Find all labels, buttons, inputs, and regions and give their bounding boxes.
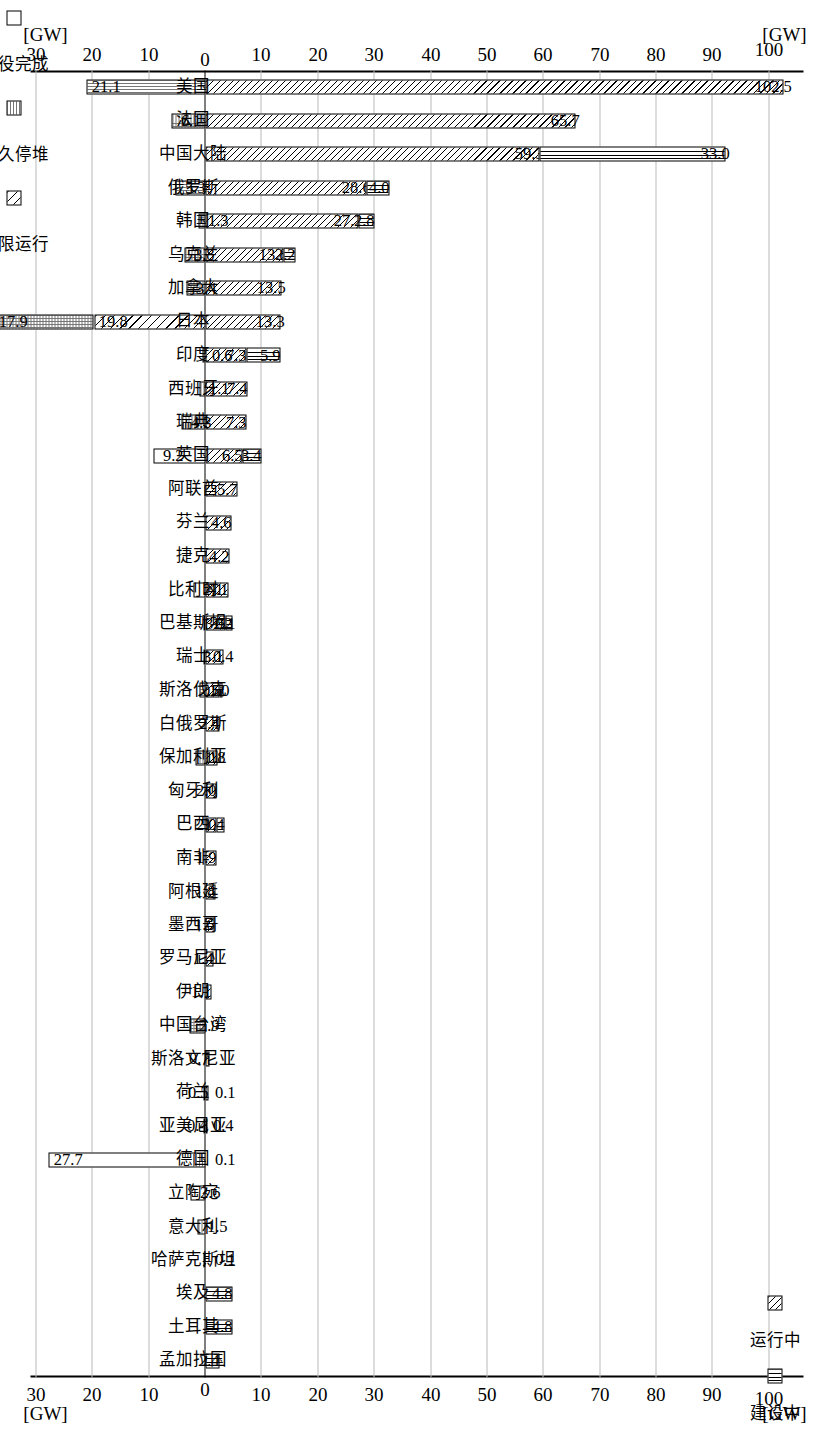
bar-column: 1.9南非 [36,850,797,865]
legend-swatch-decommissioned [7,10,22,25]
axis-tick-left-0: 0 [195,54,214,64]
bar-column: 1.5意大利 [36,1219,797,1234]
legend-label-operating: 运行中 [763,1313,787,1364]
axis-tick-right-40: 40 [421,1384,440,1403]
bar-column: 7.35.90.6印度 [36,347,797,362]
legend-label-shutdown: 永久停堆 [2,118,26,186]
legend-swatch-construction [768,1368,783,1383]
bar-column: 2.50.51.0斯洛伐克 [36,682,797,697]
bar-column: 0.7斯洛文尼亚 [36,1051,797,1066]
bar-column: 4.8埃及 [36,1286,797,1301]
bar-column: 3.10.4瑞士 [36,649,797,664]
axis-tick-right-10: 10 [251,1384,270,1403]
legend-swatch-operating [768,1295,783,1310]
bar-column: 27.12.81.3韩国 [36,213,797,228]
legend-item-operating: 运行中 [763,1295,787,1364]
bar-segment-operating [205,146,539,161]
bar-column: 2.0匈牙利 [36,783,797,798]
bar-segment-construction [539,146,725,161]
legend-item-shutdown: 永久停堆 [2,100,26,186]
axis-tick-left-10: 10 [139,44,158,63]
bar-column: 4.2捷克 [36,548,797,563]
bar-column: 5.7阿联酋 [36,481,797,496]
bar-column: 59.333.0中国大陆 [36,146,797,161]
bar-series-group: 102.521.1美国65.76.1法国59.333.0中国大陆28.64.05… [36,70,797,1377]
legend-swatch-shutdown [7,100,22,115]
bar-column: 13.319.817.9日本 [36,314,797,329]
axis-tick-left-30: 30 [364,44,383,63]
bar-column: 1.1伊朗 [36,984,797,999]
bar-column: 1.4罗马尼亚 [36,951,797,966]
axis-tick-right-70: 70 [590,1384,609,1403]
bar-column: 2.4孟加拉国 [36,1353,797,1368]
axis-tick-right-30: 30 [364,1384,383,1403]
bar-column: 1.8阿根廷 [36,884,797,899]
bar-column: 2.4白俄罗斯 [36,716,797,731]
bar-column: 2.11.8保加利亚 [36,750,797,765]
axis-tick-right-20: 20 [82,1384,101,1403]
legend-item-limited: 受限运行 [2,190,26,276]
axis-tick-left-70: 70 [590,44,609,63]
bar-column: 4.12.1比利时 [36,582,797,597]
plot-area: 0010102020303040405050606070708080909010… [36,70,797,1377]
bar-column: 13.53.4加拿大 [36,280,797,295]
bar-column: 13.82.23.8乌克兰 [36,247,797,262]
axis-tick-right-10: 10 [139,1384,158,1403]
unit-label-bottom-left: [GW] [34,12,56,56]
unit-label-top-left: [GW] [773,12,795,56]
unit-label-bottom-right: [GW] [34,1391,56,1435]
bar-column: 4.8土耳其 [36,1319,797,1334]
axis-tick-left-60: 60 [533,44,552,63]
bar-column: 2.9中国台湾 [36,1018,797,1033]
unit-label-top-right: [GW] [773,1391,795,1435]
bar-column: 3.51.20.1巴基斯坦 [36,615,797,630]
legend-bottom: 受限运行永久停堆退役完成 [2,6,26,276]
bar-column: 2.01.4巴西 [36,817,797,832]
legend-swatch-limited [7,190,22,205]
axis-tick-left-40: 40 [421,44,440,63]
bar-segment-operating [205,113,575,128]
bar-column: 0.127.7德国 [36,1152,797,1167]
bar-segment-operating [205,79,783,94]
bar-column: 7.34.3瑞典 [36,414,797,429]
bar-column: 6.53.49.2英国 [36,448,797,463]
axis-tick-left-20: 20 [82,44,101,63]
bar-column: 4.6芬兰 [36,515,797,530]
bar-column: 1.6墨西哥 [36,917,797,932]
bar-column: 0.1哈萨克斯坦 [36,1252,797,1267]
axis-tick-right-50: 50 [477,1384,496,1403]
axis-tick-right-20: 20 [308,1384,327,1403]
bar-column: 28.64.05.3俄罗斯 [36,180,797,195]
legend-label-limited: 受限运行 [2,208,26,276]
bar-column: 0.50.1荷兰 [36,1085,797,1100]
chart-figure: 0010102020303040405050606070708080909010… [0,0,821,1447]
bar-column: 0.40.4亚美尼亚 [36,1118,797,1133]
bar-column: 102.521.1美国 [36,79,797,94]
axis-tick-right-0: 0 [195,1384,214,1394]
axis-tick-right-90: 90 [702,1384,721,1403]
bar-column: 7.41.1西班牙 [36,381,797,396]
bar-column: 65.76.1法国 [36,113,797,128]
axis-tick-left-80: 80 [646,44,665,63]
axis-tick-right-60: 60 [533,1384,552,1403]
axis-tick-left-50: 50 [477,44,496,63]
axis-tick-left-90: 90 [702,44,721,63]
bar-column: 2.6立陶宛 [36,1185,797,1200]
axis-tick-left-10: 10 [251,44,270,63]
axis-tick-right-80: 80 [646,1384,665,1403]
axis-tick-left-20: 20 [308,44,327,63]
